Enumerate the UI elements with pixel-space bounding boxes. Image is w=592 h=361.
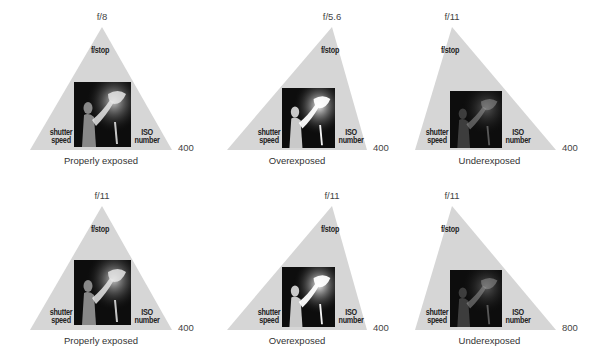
fstop-value: f/11: [444, 12, 459, 22]
fstop-axis-title: f/stop: [88, 46, 112, 54]
performer-silhouette-icon: [74, 260, 131, 325]
shutter-speed-axis-title: shutterspeed: [49, 128, 73, 144]
iso-value: 400: [562, 143, 578, 153]
number-line: number: [338, 136, 364, 144]
sample-photo: [282, 88, 335, 148]
speed-line: speed: [49, 136, 73, 144]
exposure-caption: Underexposed: [459, 155, 521, 166]
fstop-value: f/11: [324, 191, 339, 201]
fstop-value: f/11: [94, 191, 109, 201]
shutter-speed-axis-title: shutterspeed: [257, 128, 281, 144]
sample-photo: [282, 267, 335, 327]
speed-line: speed: [425, 136, 449, 144]
iso-value: 400: [373, 323, 389, 333]
fstop-axis-title: f/stop: [318, 225, 342, 233]
performer-silhouette-icon: [282, 88, 335, 148]
sample-photo: [74, 82, 131, 147]
number-line: number: [338, 316, 364, 324]
iso-number-axis-title: ISOnumber: [505, 128, 531, 144]
fstop-axis-title: f/stop: [438, 225, 462, 233]
iso-number-axis-title: ISOnumber: [505, 308, 531, 324]
exposure-caption: Overexposed: [269, 155, 326, 166]
exposure-caption: Properly exposed: [64, 335, 138, 346]
shutter-speed-axis-title: shutterspeed: [49, 308, 73, 324]
iso-number-axis-title: ISOnumber: [134, 128, 160, 144]
number-line: number: [134, 316, 160, 324]
iso-value: 400: [373, 143, 389, 153]
performer-silhouette-icon: [282, 267, 335, 327]
shutter-speed-axis-title: shutterspeed: [425, 308, 449, 324]
sample-photo: [74, 260, 131, 325]
sample-photo: [450, 91, 502, 148]
number-line: number: [134, 136, 160, 144]
performer-silhouette-icon: [450, 270, 502, 327]
iso-value: 800: [562, 323, 578, 333]
shutter-speed-axis-title: shutterspeed: [425, 128, 449, 144]
fstop-axis-title: f/stop: [438, 46, 462, 54]
fstop-axis-title: f/stop: [318, 46, 342, 54]
fstop-value: f/11: [444, 191, 459, 201]
number-line: number: [505, 316, 531, 324]
fstop-value: f/5.6: [323, 12, 342, 22]
performer-silhouette-icon: [450, 91, 502, 148]
fstop-axis-title: f/stop: [88, 225, 112, 233]
fstop-value: f/8: [97, 12, 108, 22]
iso-number-axis-title: ISOnumber: [134, 308, 160, 324]
iso-value: 400: [178, 143, 194, 153]
iso-value: 400: [178, 323, 194, 333]
shutter-speed-axis-title: shutterspeed: [257, 308, 281, 324]
number-line: number: [505, 136, 531, 144]
exposure-caption: Overexposed: [269, 335, 326, 346]
speed-line: speed: [425, 316, 449, 324]
speed-line: speed: [257, 136, 281, 144]
iso-number-axis-title: ISOnumber: [338, 308, 364, 324]
speed-line: speed: [257, 316, 281, 324]
sample-photo: [450, 270, 502, 327]
speed-line: speed: [49, 316, 73, 324]
iso-number-axis-title: ISOnumber: [338, 128, 364, 144]
performer-silhouette-icon: [74, 82, 131, 147]
exposure-caption: Underexposed: [459, 335, 521, 346]
exposure-caption: Properly exposed: [64, 155, 138, 166]
